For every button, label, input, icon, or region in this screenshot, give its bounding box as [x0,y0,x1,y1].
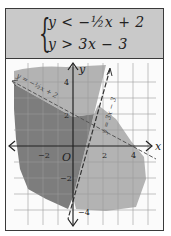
inequality-1: y < −½x + 2 [48,14,145,30]
inequality-2: y > 3x − 3 [48,36,128,52]
y-axis-label: y [78,63,86,76]
origin-label: O [62,151,71,164]
problem-card: { y < −½x + 2 y > 3x − 3 [5,8,164,231]
x-tick-2: 2 [102,151,107,160]
y-tick-4: 4 [64,78,69,87]
x-tick-4: 4 [131,151,136,160]
y-tick-2: 2 [64,111,69,120]
x-axis-label: x [155,140,162,153]
inequality-system-header: { y < −½x + 2 y > 3x − 3 [6,9,163,59]
y-tick-neg2: −2 [60,174,72,183]
x-tick-neg2: −2 [38,151,50,160]
coordinate-graph: x y O −2 2 4 4 2 −2 −4 y = −½x + 2 y = 3… [6,59,163,230]
y-tick-neg4: −4 [78,208,90,217]
